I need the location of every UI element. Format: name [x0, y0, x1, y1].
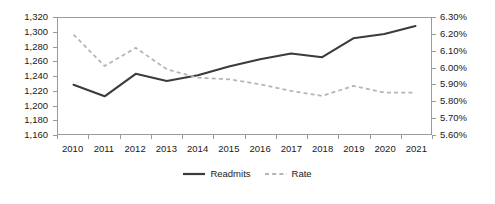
- y-axis-left-tick-label: 1,160: [4, 130, 48, 140]
- y-axis-right-tick-label: 6.30%: [440, 12, 486, 22]
- legend-label-rate: Rate: [292, 168, 312, 179]
- y-axis-right-tick-label: 6.00%: [440, 63, 486, 73]
- dashed-line-icon: [265, 170, 287, 178]
- y-axis-right-tick: [432, 101, 436, 102]
- x-axis-tick: [401, 135, 402, 139]
- x-axis-tick: [182, 135, 183, 139]
- x-axis-tick: [307, 135, 308, 139]
- y-axis-left-tick-label: 1,200: [4, 101, 48, 111]
- x-axis-tick: [151, 135, 152, 139]
- x-axis-tick: [88, 135, 89, 139]
- legend-label-readmits: Readmits: [210, 168, 250, 179]
- x-axis-tick-label: 2017: [274, 144, 308, 154]
- x-axis-tick: [432, 135, 433, 139]
- solid-line-icon: [183, 170, 205, 178]
- x-axis-tick: [245, 135, 246, 139]
- y-axis-left-tick-label: 1,240: [4, 71, 48, 81]
- x-axis-tick-label: 2010: [56, 144, 90, 154]
- series-line-readmits: [74, 26, 416, 96]
- series-line-rate: [74, 35, 416, 96]
- legend-item-rate: Rate: [265, 168, 312, 179]
- x-axis-tick-label: 2014: [181, 144, 215, 154]
- y-axis-left-tick-label: 1,300: [4, 27, 48, 37]
- y-axis-left-tick-label: 1,320: [4, 12, 48, 22]
- y-axis-right-tick: [432, 51, 436, 52]
- y-axis-right-tick: [432, 118, 436, 119]
- x-axis-tick: [276, 135, 277, 139]
- plot-svg: [58, 18, 431, 134]
- y-axis-left-tick-label: 1,180: [4, 115, 48, 125]
- y-axis-right-tick-label: 6.20%: [440, 29, 486, 39]
- x-axis-tick-label: 2020: [368, 144, 402, 154]
- x-axis-tick-label: 2012: [118, 144, 152, 154]
- line-chart: 1,3201,3001,2801,2601,2401,2201,2001,180…: [0, 0, 495, 204]
- chart-legend: Readmits Rate: [0, 168, 495, 179]
- y-axis-right-tick: [432, 17, 436, 18]
- y-axis-right-tick-label: 6.10%: [440, 46, 486, 56]
- x-axis-tick-label: 2018: [306, 144, 340, 154]
- plot-area: [57, 17, 432, 135]
- y-axis-right-tick: [432, 68, 436, 69]
- x-axis-tick-label: 2015: [212, 144, 246, 154]
- y-axis-right-tick-label: 5.70%: [440, 113, 486, 123]
- y-axis-right-tick: [432, 84, 436, 85]
- x-axis-tick-label: 2019: [337, 144, 371, 154]
- x-axis-tick-label: 2013: [149, 144, 183, 154]
- x-axis-tick: [120, 135, 121, 139]
- x-axis-tick-label: 2016: [243, 144, 277, 154]
- y-axis-right-tick-label: 5.90%: [440, 79, 486, 89]
- legend-item-readmits: Readmits: [183, 168, 250, 179]
- y-axis-right-tick: [432, 34, 436, 35]
- y-axis-left-tick-label: 1,260: [4, 56, 48, 66]
- x-axis-tick-label: 2011: [87, 144, 121, 154]
- x-axis-tick: [338, 135, 339, 139]
- x-axis-tick-label: 2021: [399, 144, 433, 154]
- x-axis-tick: [370, 135, 371, 139]
- y-axis-right-tick-label: 5.80%: [440, 96, 486, 106]
- y-axis-right-tick-label: 5.60%: [440, 130, 486, 140]
- x-axis-tick: [57, 135, 58, 139]
- y-axis-left-tick-label: 1,280: [4, 42, 48, 52]
- x-axis-tick: [213, 135, 214, 139]
- y-axis-left-tick-label: 1,220: [4, 86, 48, 96]
